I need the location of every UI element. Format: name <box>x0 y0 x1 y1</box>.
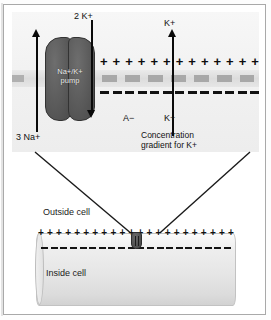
inside-cell-label: Inside cell <box>46 268 86 278</box>
potassium-gradient-arrow-head <box>168 29 176 37</box>
plus-charge: + <box>165 229 171 237</box>
negative-dash <box>51 247 58 249</box>
plus-charge: + <box>83 229 89 237</box>
gradient-caption-line2: gradient for K+ <box>141 140 197 150</box>
negative-dash <box>163 91 172 94</box>
bilayer-block <box>148 75 163 82</box>
negative-dash <box>138 91 147 94</box>
negative-dash <box>147 247 154 249</box>
negative-dash <box>41 247 48 249</box>
negative-dash <box>70 247 77 249</box>
negative-dash <box>80 247 87 249</box>
plus-charge: + <box>156 229 162 237</box>
anion-label: A− <box>123 113 134 123</box>
plus-charge: + <box>74 229 80 237</box>
plus-charge: + <box>226 57 234 66</box>
plus-charge: + <box>201 229 207 237</box>
plus-charge: + <box>213 57 221 66</box>
sodium-potassium-pump-icon: Na+/K+ pump <box>45 37 95 121</box>
bilayer-block <box>240 75 254 82</box>
negative-dash <box>185 247 192 249</box>
plus-charge: + <box>228 229 234 237</box>
negative-dash <box>108 247 115 249</box>
potassium-bottom-label: K+ <box>164 113 175 123</box>
negative-dash <box>175 91 184 94</box>
plus-charge: + <box>176 57 184 66</box>
plus-charge: + <box>163 57 171 66</box>
plus-charge: + <box>100 57 108 66</box>
sodium-efflux-arrow-head <box>32 29 40 37</box>
outside-cell-label: Outside cell <box>43 207 90 217</box>
negative-dash <box>100 91 109 94</box>
plus-charge: + <box>92 229 98 237</box>
plus-charge: + <box>192 229 198 237</box>
pump-label-line1: Na+/K+ <box>45 67 95 76</box>
plus-charge: + <box>110 229 116 237</box>
plus-charge: + <box>119 229 125 237</box>
negative-dash <box>60 247 67 249</box>
plus-charge: + <box>113 57 121 66</box>
pump-label-line2: pump <box>45 76 95 85</box>
potassium-influx-arrow-shaft <box>91 20 93 112</box>
negative-dash <box>125 91 134 94</box>
plus-charge: + <box>38 229 44 237</box>
plus-charge: + <box>239 57 247 66</box>
negative-dash <box>150 91 159 94</box>
bilayer-block <box>12 75 24 82</box>
plus-charge: + <box>56 229 62 237</box>
potassium-influx-label: 2 K+ <box>74 12 93 21</box>
negative-dash <box>113 91 122 94</box>
membrane-pump-icon <box>131 232 142 249</box>
negative-dash <box>157 247 164 249</box>
negative-dash <box>176 247 183 249</box>
bilayer-block <box>217 75 232 82</box>
negative-dash <box>99 247 106 249</box>
plus-charge: + <box>188 57 196 66</box>
negative-dash <box>238 91 247 94</box>
gradient-caption: Concentration gradient for K+ <box>141 130 197 150</box>
bilayer-block <box>125 75 140 82</box>
plus-charge: + <box>65 229 71 237</box>
plus-charge: + <box>201 57 209 66</box>
potassium-influx-arrow-head <box>87 110 95 118</box>
plus-charge: + <box>251 57 259 66</box>
plus-charge: + <box>183 229 189 237</box>
negative-dash <box>188 91 197 94</box>
negative-dash <box>205 247 212 249</box>
negative-dash <box>195 247 202 249</box>
plus-charge: + <box>138 57 146 66</box>
negative-dash <box>200 91 209 94</box>
negative-dash <box>224 247 231 249</box>
sodium-efflux-label: 3 Na+ <box>16 132 40 142</box>
plus-charge: + <box>174 229 180 237</box>
plus-charge: + <box>147 229 153 237</box>
bilayer-block <box>102 75 117 82</box>
outer-positive-charge-row: + + + + + + + + + + + + + <box>100 57 259 66</box>
gradient-caption-line1: Concentration <box>141 130 197 140</box>
bilayer-block <box>194 75 209 82</box>
plus-charge: + <box>150 57 158 66</box>
negative-dash <box>213 91 222 94</box>
sodium-efflux-arrow-shaft <box>36 36 38 132</box>
negative-dash <box>225 91 234 94</box>
negative-dash <box>89 247 96 249</box>
negative-dash <box>166 247 173 249</box>
negative-dash <box>250 91 259 94</box>
plus-charge: + <box>210 229 216 237</box>
magnified-membrane-inset: + + + + + + + + + + + + + <box>12 12 259 152</box>
potassium-top-label: K+ <box>164 18 175 28</box>
membrane-potential-diagram: + + + + + + + + + + + + + <box>0 0 271 320</box>
plus-charge: + <box>101 229 107 237</box>
plus-charge: + <box>47 229 53 237</box>
inner-negative-charge-row <box>100 91 259 94</box>
pump-label: Na+/K+ pump <box>45 67 95 85</box>
negative-dash <box>214 247 221 249</box>
cell-tube-end-cap <box>35 232 44 305</box>
negative-dash <box>118 247 125 249</box>
plus-charge: + <box>125 57 133 66</box>
plus-charge: + <box>219 229 225 237</box>
